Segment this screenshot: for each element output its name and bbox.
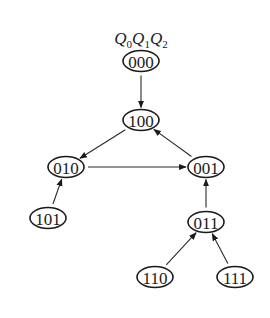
state-node-101: 101	[30, 208, 66, 229]
state-node-label: 010	[53, 159, 79, 178]
state-node-111: 111	[217, 267, 253, 288]
edge-001-to-100	[154, 129, 192, 156]
state-node-label: 001	[193, 159, 219, 178]
edge-101-to-010	[53, 179, 62, 204]
state-node-label: 111	[223, 269, 247, 288]
state-node-label: 000	[128, 53, 154, 72]
state-variables-header: Q0Q1Q2	[114, 29, 167, 50]
edge-111-to-011	[212, 234, 228, 264]
state-node-110: 110	[137, 267, 173, 288]
edge-100-to-010	[80, 130, 125, 158]
state-node-label: 101	[35, 210, 61, 229]
state-node-label: 100	[128, 112, 154, 131]
state-node-label: 110	[143, 269, 168, 288]
state-node-label: 011	[194, 214, 219, 233]
state-node-000: 000	[123, 51, 159, 72]
state-diagram: Q0Q1Q2 000100010001101011110111	[0, 0, 270, 318]
state-node-011: 011	[188, 212, 224, 233]
edge-110-to-011	[166, 233, 196, 265]
state-node-010: 010	[48, 157, 84, 178]
state-node-001: 001	[188, 157, 224, 178]
state-node-100: 100	[123, 110, 159, 131]
